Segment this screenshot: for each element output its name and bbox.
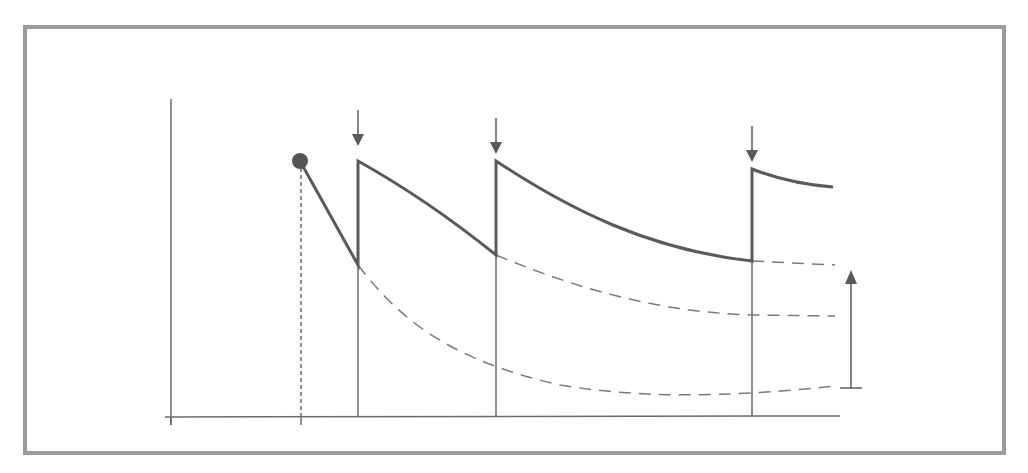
- diagram-svg: [0, 0, 1028, 473]
- initial-dose-dot: [292, 153, 308, 169]
- x-axis: [165, 416, 840, 417]
- diagram-frame: [25, 27, 1004, 453]
- diagram-canvas: [0, 0, 1028, 473]
